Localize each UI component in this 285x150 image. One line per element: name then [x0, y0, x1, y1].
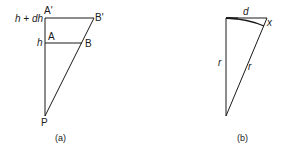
label-a-prime: A' — [44, 6, 53, 16]
label-x: x — [267, 18, 272, 28]
label-r-right: r — [248, 62, 251, 72]
label-a: A — [48, 32, 55, 42]
label-b: B — [85, 39, 92, 49]
caption-a: (a) — [55, 133, 66, 143]
label-r-left: r — [218, 58, 221, 68]
label-p: P — [41, 118, 48, 128]
label-d: d — [243, 7, 249, 17]
arc-thick-start — [226, 18, 238, 19]
label-h: h — [37, 38, 43, 48]
slanted-radius-line — [226, 18, 267, 116]
label-b-prime: B' — [95, 13, 104, 23]
caption-b: (b) — [237, 133, 248, 143]
figure-b-lines — [226, 18, 267, 116]
label-h-plus-dh: h + dh — [15, 14, 43, 24]
